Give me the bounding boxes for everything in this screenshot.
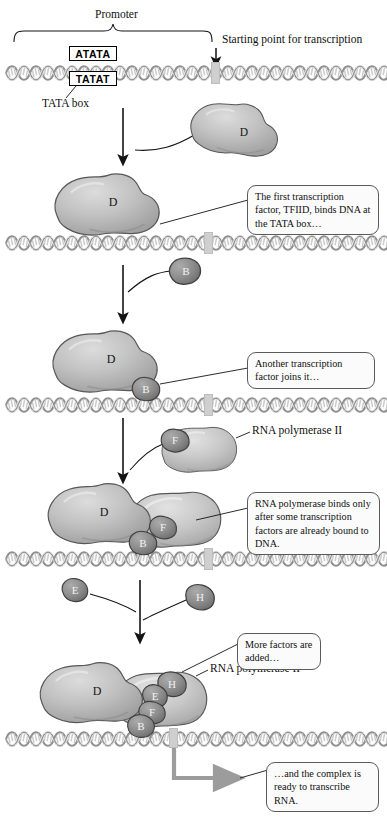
promoter-label: Promoter	[95, 8, 138, 21]
protein-label-D-bound-5: D	[107, 352, 116, 366]
protein-label-B-free: B	[182, 265, 189, 277]
callout-polymerase-binds: RNA polymerase binds only after some tra…	[247, 492, 380, 555]
callout-tfiid-binds: The first transcription factor, TFIID, b…	[247, 185, 379, 235]
binding-curve-2	[128, 271, 172, 292]
protein-label-F-free: F	[172, 434, 178, 446]
protein-label-D-bound-3: D	[109, 195, 118, 209]
protein-label-B-bound-7: B	[139, 537, 146, 549]
binding-curve-3	[130, 444, 163, 470]
stage-8-e-h-approaching: E H	[61, 577, 216, 638]
stage-6-polymerase-approaching: F	[123, 418, 250, 478]
tata-box-label: TATA box	[42, 97, 89, 110]
transcription-start-marker	[211, 62, 220, 84]
diagram-vectors: D D B	[0, 0, 387, 820]
dna-strand-stage-5	[6, 398, 387, 412]
callout-another-factor: Another transcription factor joins it…	[247, 352, 375, 389]
callout-1-leader	[160, 200, 248, 224]
binding-curve-1	[135, 134, 196, 150]
protein-label-H-bound-9: H	[168, 678, 176, 690]
callout-2-leader	[160, 368, 248, 384]
transcription-start-marker-stage-7	[204, 548, 213, 570]
figure-canvas: D D B	[0, 0, 387, 820]
tata-box-top-strand: ATATA	[69, 46, 117, 61]
transcription-start-marker-stage-9	[169, 728, 178, 748]
dna-strand-stage-1	[6, 66, 387, 80]
protein-label-B-bound-5: B	[142, 383, 149, 395]
callout-5-leader	[240, 770, 268, 778]
protein-label-E-bound-9: E	[152, 690, 159, 702]
start-point-label: Starting point for transcription	[222, 33, 362, 46]
protein-label-F-bound-9: F	[149, 706, 155, 718]
protein-label-E-free: E	[72, 584, 79, 596]
transcription-start-marker-stage-5	[204, 394, 213, 416]
protein-blob-D-bound-3	[55, 174, 159, 235]
promoter-bracket	[14, 24, 212, 42]
callout-ready-to-transcribe: …and the complex is ready to transcribe …	[266, 762, 379, 812]
protein-label-D-bound-7: D	[100, 505, 109, 519]
protein-label-H-free: H	[196, 591, 204, 603]
dna-strand-stage-9	[6, 732, 387, 746]
protein-blob-D-bound-9	[40, 663, 142, 723]
protein-label-D-free: D	[240, 126, 248, 138]
callout-more-factors: More factors are added…	[237, 633, 321, 670]
stage-2-tfiid-approaching: D	[123, 97, 282, 160]
rna-pol-label-leader-bottom	[196, 670, 208, 676]
stage-9-initiation-complex: D H E F B	[6, 644, 387, 778]
tata-box-bottom-strand: TATAT	[69, 71, 117, 86]
stage-4-tfiib-approaching: B	[123, 255, 203, 318]
protein-label-D-bound-9: D	[93, 684, 102, 698]
binding-curve-E	[90, 594, 136, 612]
protein-label-F-bound-7: F	[160, 521, 166, 533]
rna-polymerase-label-mid: RNA polymerase II	[252, 424, 342, 437]
rna-pol-label-leader-mid	[236, 432, 250, 438]
dna-strand-stage-3	[6, 236, 387, 250]
transcription-start-marker-stage-3	[204, 232, 213, 254]
protein-blob-D-free	[188, 97, 282, 160]
transcription-start-arrow	[174, 744, 228, 778]
binding-curve-H	[143, 600, 186, 620]
protein-label-B-bound-9: B	[137, 720, 144, 732]
